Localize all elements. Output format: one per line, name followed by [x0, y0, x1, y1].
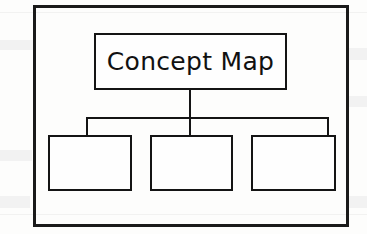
- scan-artifact: [0, 150, 32, 161]
- scan-artifact: [0, 196, 30, 208]
- scan-artifact: [349, 96, 367, 107]
- root-node-label: Concept Map: [107, 49, 274, 74]
- child-node-1[interactable]: [48, 135, 132, 191]
- scan-artifact: [0, 40, 33, 50]
- connector-stub-right: [327, 117, 329, 136]
- connector-root-drop: [189, 90, 191, 119]
- child-node-2[interactable]: [150, 135, 233, 191]
- connector-stub-middle: [189, 117, 191, 136]
- connector-stub-left: [86, 117, 88, 136]
- connector-horizontal-bus: [86, 117, 329, 119]
- concept-map-diagram: Concept Map: [0, 0, 367, 234]
- scan-artifact: [349, 48, 367, 60]
- root-node[interactable]: Concept Map: [94, 33, 287, 90]
- child-node-3[interactable]: [251, 135, 336, 191]
- scan-artifact: [349, 196, 367, 208]
